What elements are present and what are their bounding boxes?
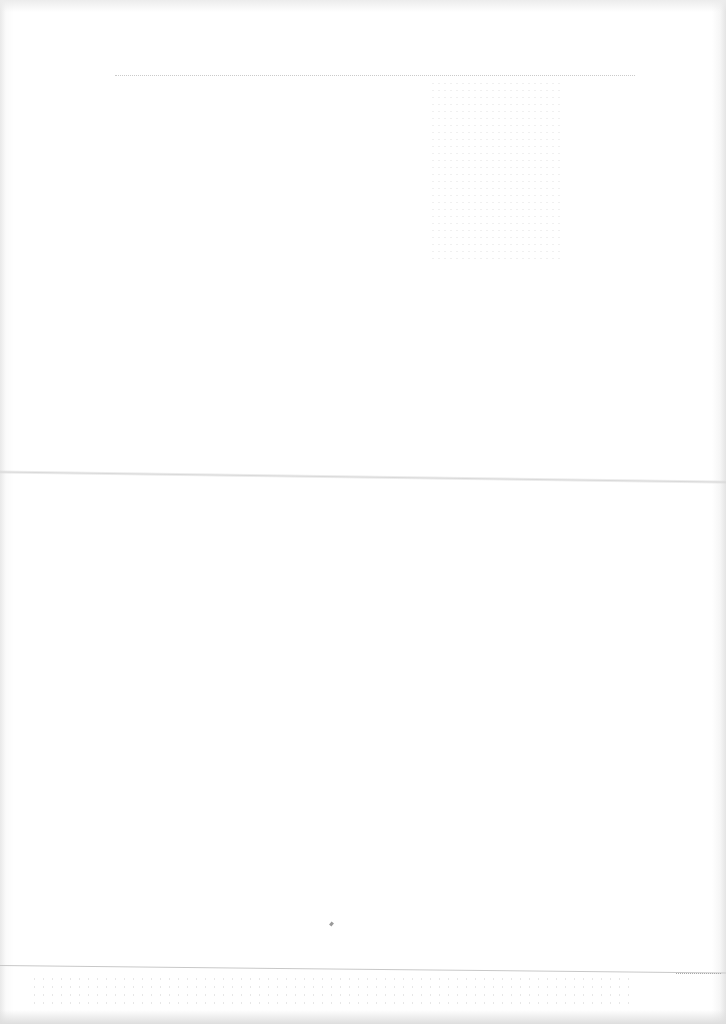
footer-corner-mark xyxy=(676,973,721,977)
footer-rule xyxy=(0,965,726,974)
footer-faint-marks xyxy=(30,975,630,1005)
faint-bleed-through xyxy=(430,80,560,260)
scanned-page xyxy=(0,0,726,1024)
fold-line xyxy=(0,470,726,484)
bottom-scan-edge xyxy=(0,1010,726,1024)
header-dotted-rule xyxy=(115,75,635,76)
top-scan-edge xyxy=(0,0,726,12)
stray-mark xyxy=(329,922,334,927)
